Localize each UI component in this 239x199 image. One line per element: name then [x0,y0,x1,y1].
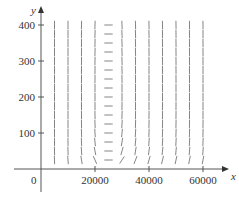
y-tick-label: 300 [19,55,36,67]
slope-segment [176,147,177,155]
slope-segment [148,156,150,164]
slope-segment [162,156,164,164]
y-axis-label: y [30,4,36,16]
slope-segment [95,138,96,146]
slope-segments [54,21,203,164]
slope-segment [135,147,136,155]
y-tick-label: 400 [19,19,36,31]
slope-segment [202,156,204,164]
slope-segment [122,129,123,137]
slope-segment [94,147,96,155]
direction-field-chart: 200004000060000 100200300400 x y 0 [0,0,239,199]
y-axis-arrow-icon [38,6,44,13]
y-ticks: 100200300400 [19,19,45,139]
slope-segment [162,138,163,146]
slope-segment [175,156,177,164]
slope-segment [149,138,150,146]
x-tick-label: 40000 [135,174,163,186]
slope-segment [68,156,69,164]
x-axis-label: x [230,170,236,182]
slope-segment [135,138,136,146]
slope-segment [93,156,96,164]
slope-segment [189,147,190,155]
slope-segment [121,138,122,146]
slope-segment [134,156,137,164]
x-tick-label: 20000 [81,174,109,186]
x-axis-arrow-icon [222,166,229,172]
y-tick-label: 200 [19,91,36,103]
slope-segment [121,147,123,155]
slope-segment [189,156,191,164]
slope-segment [162,147,163,155]
slope-segment [148,147,149,155]
slope-segment [203,147,204,155]
slope-segment [81,147,82,155]
slope-segment [120,156,125,163]
slope-segment [95,129,96,137]
y-tick-label: 100 [19,127,36,139]
slope-segment [81,156,82,164]
origin-label: 0 [31,174,37,186]
x-tick-label: 60000 [189,174,217,186]
